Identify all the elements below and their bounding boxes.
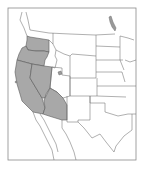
western-us-map [0,0,143,173]
map-container [0,0,143,173]
island-marker [15,81,17,83]
great-salt-lake [58,71,62,75]
